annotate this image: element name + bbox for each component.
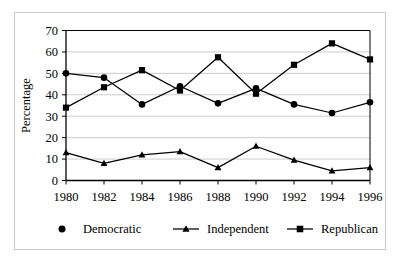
data-point-republican	[139, 67, 145, 73]
y-tick-label: 60	[46, 45, 59, 59]
data-point-democratic	[63, 70, 70, 77]
data-point-republican	[63, 105, 69, 111]
legend-marker-democratic	[59, 226, 66, 233]
data-point-democratic	[367, 99, 374, 106]
series-lines	[66, 43, 370, 171]
data-point-democratic	[329, 110, 336, 117]
chart-figure: 010203040506070 198019821984198619881990…	[0, 0, 400, 277]
x-tick-labels: 198019821984198619881990199219941996	[54, 190, 383, 204]
y-tick-label: 20	[46, 131, 59, 145]
plot-wrapper: 010203040506070 198019821984198619881990…	[0, 0, 400, 277]
data-point-republican	[329, 40, 335, 46]
y-tick-label: 50	[46, 67, 59, 81]
data-point-independent	[177, 148, 184, 154]
y-axis-title: Percentage	[19, 78, 33, 133]
data-point-independent	[367, 164, 374, 170]
series-line-republican	[66, 43, 370, 107]
series-markers	[63, 40, 374, 173]
y-tick-label: 40	[46, 88, 59, 102]
data-point-republican	[177, 87, 183, 93]
x-tick-label: 1992	[282, 190, 307, 204]
y-tick-label: 30	[46, 110, 59, 124]
grid-lines	[66, 31, 370, 160]
data-point-democratic	[101, 74, 108, 81]
y-tick-label: 10	[46, 152, 59, 166]
series-line-democratic	[66, 73, 370, 113]
legend-label-republican: Republican	[321, 222, 379, 236]
legend-label-independent: Independent	[207, 222, 269, 236]
data-point-republican	[291, 62, 297, 68]
x-tick-label: 1988	[206, 190, 231, 204]
x-tick-label: 1996	[358, 190, 383, 204]
x-tick-label: 1986	[168, 190, 193, 204]
data-point-republican	[253, 91, 259, 97]
x-tick-label: 1990	[244, 190, 269, 204]
x-tick-label: 1994	[320, 190, 346, 204]
y-tick-label: 70	[46, 24, 59, 38]
data-point-independent	[63, 149, 70, 155]
data-point-democratic	[215, 100, 222, 107]
data-point-republican	[101, 84, 107, 90]
data-point-democratic	[291, 101, 298, 108]
chart-legend: DemocraticIndependentRepublican	[59, 222, 379, 236]
x-tick-label: 1980	[54, 190, 79, 204]
legend-label-democratic: Democratic	[83, 222, 142, 236]
legend-marker-republican	[297, 226, 304, 233]
data-point-republican	[215, 54, 221, 60]
data-point-democratic	[139, 101, 146, 108]
x-tick-label: 1982	[92, 190, 117, 204]
line-chart-svg: 010203040506070 198019821984198619881990…	[0, 0, 400, 277]
data-point-independent	[253, 143, 260, 149]
y-axis-title-text: Percentage	[19, 78, 33, 133]
data-point-republican	[367, 56, 373, 62]
y-tick-label: 0	[52, 174, 58, 188]
x-tick-label: 1984	[130, 190, 156, 204]
